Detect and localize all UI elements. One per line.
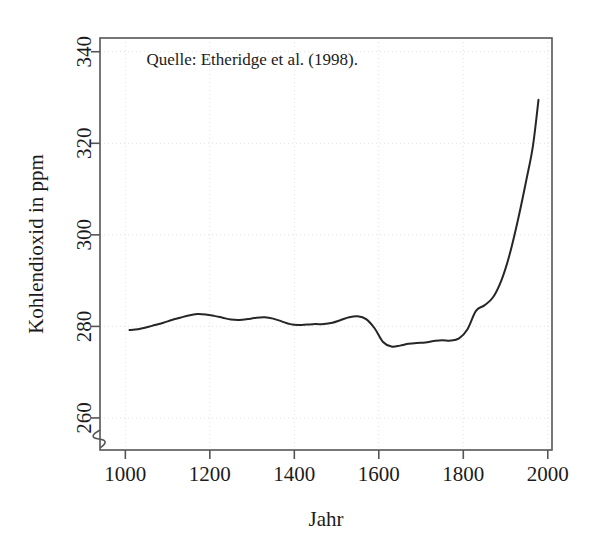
y-axis-tick-label: 300 xyxy=(72,219,96,251)
plot-frame xyxy=(100,38,552,450)
x-axis: 100012001400160018002000Jahr xyxy=(104,450,568,531)
chart-canvas: 100012001400160018002000Jahr260280300320… xyxy=(0,0,589,543)
x-axis-tick-label: 1600 xyxy=(358,462,400,486)
grid-lines xyxy=(100,38,552,450)
x-axis-title: Jahr xyxy=(309,507,344,531)
y-axis: 260280300320340Kohlendioxid in ppm xyxy=(24,36,100,434)
x-axis-tick-label: 1200 xyxy=(189,462,231,486)
x-axis-tick-label: 1800 xyxy=(442,462,484,486)
data-line-kohlendioxid xyxy=(130,100,539,347)
y-axis-title: Kohlendioxid in ppm xyxy=(24,154,48,334)
source-annotation: Quelle: Etheridge et al. (1998). xyxy=(146,50,357,69)
x-axis-tick-label: 1000 xyxy=(104,462,146,486)
y-axis-tick-label: 260 xyxy=(72,402,96,434)
y-axis-tick-label: 340 xyxy=(72,36,96,68)
y-axis-break-icon xyxy=(93,430,105,448)
x-axis-tick-label: 2000 xyxy=(527,462,569,486)
y-axis-tick-label: 280 xyxy=(72,311,96,343)
x-axis-tick-label: 1400 xyxy=(273,462,315,486)
y-axis-tick-label: 320 xyxy=(72,128,96,160)
co2-chart-figure: 100012001400160018002000Jahr260280300320… xyxy=(0,0,589,543)
